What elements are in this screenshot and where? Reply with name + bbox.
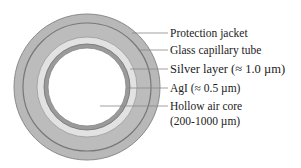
label-glass-capillary-tube: Glass capillary tube: [170, 44, 261, 57]
label-core-size: (200-1000 µm): [170, 115, 240, 128]
fiber-cross-section: [0, 0, 301, 168]
hollow-air-core: [48, 48, 126, 126]
label-agi: AgI (≈ 0.5 µm): [170, 82, 240, 95]
label-silver-layer: Silver layer (≈ 1.0 µm): [170, 63, 285, 76]
label-hollow-air-core: Hollow air core: [170, 100, 242, 113]
label-protection-jacket: Protection jacket: [170, 27, 248, 40]
